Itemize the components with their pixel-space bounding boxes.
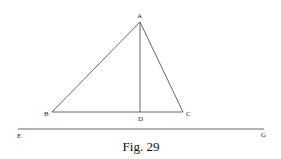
label-e: E	[17, 132, 21, 140]
figure-caption: Fig. 29	[123, 139, 160, 154]
label-c: C	[186, 110, 191, 118]
label-a: A	[137, 12, 142, 20]
label-b: B	[44, 110, 49, 118]
segment-ab	[52, 22, 140, 112]
label-g: G	[261, 131, 266, 139]
segment-ac	[140, 22, 183, 112]
figure-29: A B C D E G Fig. 29	[0, 0, 281, 159]
label-d: D	[138, 115, 143, 123]
geometry-diagram: A B C D E G Fig. 29	[0, 0, 281, 159]
